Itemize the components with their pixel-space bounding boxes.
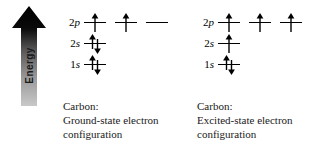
orbital-row-2s: 2s: [196, 33, 302, 54]
orbital-row-1s: 1s: [62, 54, 168, 75]
orbital-slot: [249, 13, 271, 33]
orbital-slot-empty: [146, 13, 168, 33]
orbital-slots-2p: [218, 13, 302, 33]
orbital-label-1s-l: s: [210, 58, 214, 70]
orbital-slot: [84, 34, 106, 54]
caption-line-description: Excited-state electron: [197, 113, 293, 127]
orbital-slot: [218, 34, 240, 54]
orbital-label-2p-l: p: [209, 16, 215, 28]
excited-state-orbital-diagram: 2p: [196, 12, 302, 75]
electron-spin-up-arrow: [84, 13, 106, 33]
orbital-slots-2s: [218, 34, 240, 54]
orbital-label-2s: 2s: [62, 38, 84, 49]
orbital-row-2p: 2p: [196, 12, 302, 33]
orbital-label-1s-l: s: [76, 58, 80, 70]
orbital-slots-2s: [84, 34, 106, 54]
orbital-label-2s: 2s: [196, 38, 218, 49]
orbital-slot: [218, 55, 240, 75]
orbital-slot: [84, 55, 106, 75]
orbital-label-1s: 1s: [62, 59, 84, 70]
caption-line-configuration: configuration: [63, 127, 159, 141]
orbital-slot: [280, 13, 302, 33]
orbital-row-2p: 2p: [62, 12, 168, 33]
electron-spin-pair-arrows: [84, 55, 106, 75]
orbital-slots-2p: [84, 13, 168, 33]
caption-line-configuration: configuration: [197, 127, 293, 141]
ground-state-caption: Carbon: Ground-state electron configurat…: [63, 99, 159, 141]
orbital-slot: [115, 13, 137, 33]
electron-spin-pair-arrows: [218, 55, 240, 75]
orbital-slots-1s: [218, 55, 240, 75]
orbital-label-1s: 1s: [196, 59, 218, 70]
orbital-slot: [84, 13, 106, 33]
orbital-label-2p: 2p: [196, 17, 218, 28]
orbital-slot: [218, 13, 240, 33]
orbital-label-2p-l: p: [75, 16, 81, 28]
caption-line-description: Ground-state electron: [63, 113, 159, 127]
electron-spin-up-arrow: [280, 13, 302, 33]
ground-state-orbital-diagram: 2p: [62, 12, 168, 75]
orbital-row-2s: 2s: [62, 33, 168, 54]
orbital-diagram-figure: Energy 2p: [0, 0, 316, 151]
orbital-label-2p: 2p: [62, 17, 84, 28]
orbital-row-1s: 1s: [196, 54, 302, 75]
orbital-slots-1s: [84, 55, 106, 75]
electron-spin-pair-arrows: [84, 34, 106, 54]
orbital-line: [146, 22, 168, 24]
electron-spin-up-arrow: [249, 13, 271, 33]
caption-line-element: Carbon:: [63, 99, 159, 113]
orbital-label-2s-l: s: [210, 37, 214, 49]
orbital-label-2s-l: s: [76, 37, 80, 49]
electron-spin-up-arrow: [218, 13, 240, 33]
energy-axis-arrow: [12, 6, 46, 106]
excited-state-caption: Carbon: Excited-state electron configura…: [197, 99, 293, 141]
electron-spin-up-arrow: [218, 34, 240, 54]
electron-spin-up-arrow: [115, 13, 137, 33]
caption-line-element: Carbon:: [197, 99, 293, 113]
